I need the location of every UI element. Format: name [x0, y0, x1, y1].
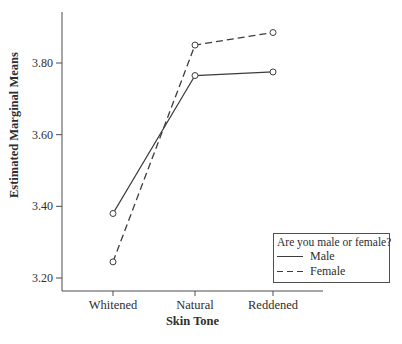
x-tick-label: Reddened — [248, 298, 299, 312]
y-tick-label: 3.40 — [32, 199, 53, 213]
x-tick-label: Whitened — [89, 298, 138, 312]
legend-item-male: Male — [277, 249, 389, 264]
y-axis-title: Estimated Marginal Means — [7, 74, 23, 198]
estimated-marginal-means-chart: 3.803.603.403.20WhitenedNaturalReddened … — [0, 0, 402, 344]
legend-item-female: Female — [277, 264, 389, 279]
x-axis-title: Skin Tone — [62, 314, 323, 329]
y-tick-label: 3.60 — [32, 128, 53, 142]
x-tick-label: Natural — [176, 298, 214, 312]
y-tick-label: 3.20 — [32, 271, 53, 285]
legend-label-male: Male — [310, 249, 335, 264]
chart-canvas: 3.803.603.403.20WhitenedNaturalReddened — [0, 0, 402, 344]
male-solid-line-icon — [277, 256, 303, 257]
female-dashed-line-icon — [277, 271, 303, 272]
point-male-whitened — [110, 210, 116, 216]
legend: Are you male or female? Male Female — [273, 233, 390, 283]
point-female-natural — [192, 42, 198, 48]
point-male-natural — [192, 73, 198, 79]
legend-label-female: Female — [310, 264, 345, 279]
female-series-line — [113, 33, 273, 262]
point-female-reddened — [270, 30, 276, 36]
point-female-whitened — [110, 259, 116, 265]
y-tick-label: 3.80 — [32, 56, 53, 70]
legend-title: Are you male or female? — [277, 236, 389, 248]
point-male-reddened — [270, 69, 276, 75]
male-series-line — [113, 72, 273, 214]
